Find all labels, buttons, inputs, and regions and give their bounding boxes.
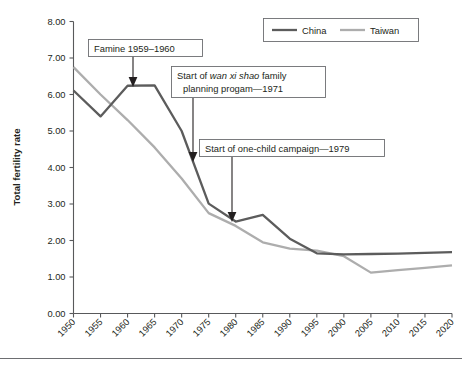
chart-legend: China Taiwan: [264, 19, 419, 42]
y-axis-tick-label: 2.00: [47, 236, 65, 246]
series-line-china: [74, 85, 453, 254]
annotation-wan-xi-shao-label-line1: Start of wan xi shao family: [177, 70, 287, 81]
chart-axes: [70, 22, 453, 318]
y-axis-tick-label: 0.00: [47, 309, 65, 319]
annotation-one-child-label: Start of one-child campaign—1979: [205, 143, 349, 154]
x-axis-tick-label: 1955: [83, 317, 105, 339]
x-axis-tick-label: 1980: [218, 317, 240, 339]
y-axis-title: Total fertility rate: [11, 128, 22, 205]
legend-label-taiwan: Taiwan: [370, 25, 399, 36]
x-axis-tick-label: 2010: [380, 317, 402, 339]
x-axis-tick-label: 1985: [245, 317, 267, 339]
chart-series-group: [74, 67, 453, 272]
y-axis-tick-label: 5.00: [47, 126, 65, 136]
x-axis-tick-label: 1975: [191, 317, 213, 339]
y-axis-tick-label: 8.00: [47, 17, 65, 27]
x-axis-tick-label: 1960: [110, 317, 132, 339]
y-axis-tick-label: 4.00: [47, 163, 65, 173]
y-axis-tick-label: 7.00: [47, 53, 65, 63]
x-axis-tick-label: 1970: [164, 317, 186, 339]
annotation-famine-label: Famine 1959–1960: [94, 43, 175, 54]
x-axis-ticks: [74, 314, 453, 318]
y-axis-tick-label: 3.00: [47, 199, 65, 209]
x-axis-tick-label: 2015: [407, 317, 429, 339]
x-axis-tick-label: 1995: [299, 317, 321, 339]
y-axis-tick-label: 1.00: [47, 272, 65, 282]
chart-canvas: Total fertility rate 0.001.002.003.004.0…: [0, 0, 462, 371]
x-axis-tick-label: 2000: [326, 317, 348, 339]
x-axis-tick-label: 2005: [353, 317, 375, 339]
annotation-wan-xi-shao-arrow-head: [189, 152, 198, 162]
fertility-rate-chart-figure: Total fertility rate 0.001.002.003.004.0…: [0, 0, 462, 371]
legend-label-china: China: [302, 25, 327, 36]
y-axis-tick-labels: 0.001.002.003.004.005.006.007.008.00: [47, 17, 65, 319]
y-axis-ticks: [70, 22, 74, 314]
x-axis-tick-label: 1965: [137, 317, 159, 339]
annotation-one-child: Start of one-child campaign—1979: [200, 140, 385, 223]
y-axis-tick-label: 6.00: [47, 90, 65, 100]
x-axis-tick-labels: 1950195519601965197019751980198519901995…: [56, 317, 456, 339]
x-axis-tick-label: 1990: [272, 317, 294, 339]
x-axis-tick-label: 2020: [434, 317, 456, 339]
annotation-wan-xi-shao-label-line2: planning progam—1971: [183, 83, 283, 94]
series-line-taiwan: [74, 67, 453, 272]
x-axis-tick-label: 1950: [56, 317, 78, 339]
